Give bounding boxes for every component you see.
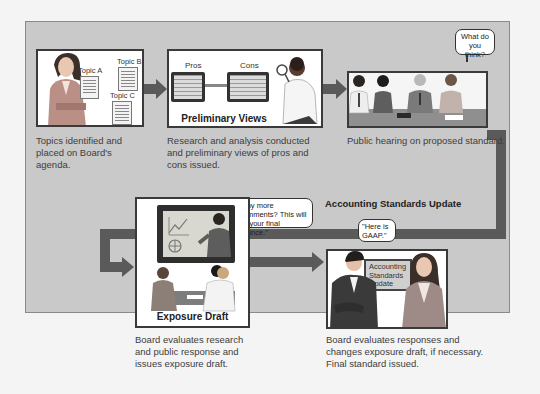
arrow-step2-to-step3 bbox=[322, 84, 337, 94]
meeting-table-icon bbox=[137, 265, 248, 317]
woman-figure-icon bbox=[398, 251, 448, 329]
exposure-draft-title: Exposure Draft bbox=[137, 311, 248, 322]
step4-illustration: Exposure Draft bbox=[135, 197, 250, 328]
topic-b-label: Topic B bbox=[117, 57, 142, 66]
cons-monitor-icon bbox=[227, 72, 269, 102]
arrow-head-icon bbox=[122, 257, 134, 277]
pros-monitor-icon bbox=[171, 72, 205, 102]
step5-caption: Board evaluates responses and changes ex… bbox=[326, 334, 486, 370]
step5-illustration: Accounting Standards Update bbox=[326, 249, 448, 329]
presentation-screen bbox=[157, 205, 235, 263]
preliminary-views-title: Preliminary Views bbox=[169, 113, 279, 124]
arrow-into-step4 bbox=[100, 262, 123, 272]
arrow-step4-to-step5 bbox=[250, 257, 313, 267]
topic-a-label: Topic A bbox=[78, 66, 102, 75]
presenter-icon bbox=[197, 211, 233, 257]
step1-caption: Topics identified and placed on Board's … bbox=[36, 135, 148, 171]
document-icon bbox=[118, 67, 138, 91]
step2-illustration: Pros Cons Preliminary Views bbox=[167, 49, 323, 128]
pros-label: Pros bbox=[185, 61, 201, 70]
speech-bubble-here-is-gaap: "Here is GAAP." bbox=[358, 219, 396, 242]
bubble-tail bbox=[466, 54, 468, 62]
speech-text: "Here is GAAP." bbox=[362, 222, 388, 240]
step3-caption: Public hearing on proposed standard. bbox=[347, 135, 507, 147]
topic-c-label: Topic C bbox=[110, 91, 135, 100]
arrow-step1-to-step2 bbox=[143, 84, 157, 94]
step3-illustration bbox=[347, 71, 488, 128]
public-hearing-group-icon bbox=[349, 73, 486, 126]
cons-label: Cons bbox=[240, 61, 259, 70]
document-icon bbox=[80, 76, 99, 99]
speech-bubble-what-do-you-think: What do you think? bbox=[455, 29, 495, 55]
arrow-head-icon bbox=[336, 79, 347, 99]
arrow-head-icon bbox=[312, 252, 324, 272]
chart-icon bbox=[167, 215, 193, 255]
accounting-standards-update-heading: Accounting Standards Update bbox=[325, 198, 461, 209]
double-arrow-icon bbox=[205, 84, 227, 87]
arrow-head-icon bbox=[156, 79, 167, 99]
man-in-suit-icon bbox=[328, 251, 383, 329]
document-icon bbox=[112, 101, 132, 125]
step1-illustration: Topic A Topic B Topic C bbox=[36, 49, 144, 127]
step4-caption: Board evaluates research and public resp… bbox=[135, 334, 253, 370]
step2-caption: Research and analysis conducted and prel… bbox=[167, 135, 327, 171]
